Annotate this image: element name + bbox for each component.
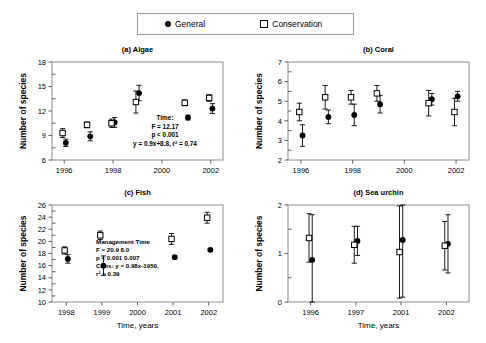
- marker-conservation: [322, 95, 327, 100]
- data-point: [300, 125, 306, 147]
- annotation-line: r² = 0.39: [96, 270, 120, 277]
- annotation-line: p < 0.001: [151, 131, 179, 139]
- legend-item-conservation: Conservation: [260, 19, 322, 29]
- x-tick-label: 1996: [293, 166, 310, 175]
- x-tick-label: 2001: [393, 308, 410, 317]
- y-tick-label: 3: [278, 136, 282, 145]
- x-tick-label: 1998: [58, 308, 75, 317]
- y-tick-label: 12: [38, 286, 46, 295]
- data-point: [209, 104, 215, 114]
- marker-general: [209, 106, 215, 112]
- data-point: [109, 119, 114, 127]
- panel-algae: (a) Algae691215181996199820002002Number …: [18, 45, 223, 175]
- marker-conservation: [169, 236, 174, 241]
- panel-sea-urchin: (d) Sea urchin0121996199720012002Number …: [254, 188, 469, 330]
- data-point: [452, 98, 457, 125]
- data-point: [206, 95, 211, 102]
- marker-conservation: [84, 122, 89, 127]
- legend: General Conservation: [137, 13, 354, 35]
- y-tick-label: 24: [38, 213, 46, 222]
- annotation-line: Cons: y = 0.98x-1950,: [96, 262, 159, 269]
- data-point: [207, 247, 213, 253]
- y-tick-label: 16: [38, 261, 46, 270]
- data-point: [136, 85, 142, 101]
- y-tick-label: 22: [38, 225, 46, 234]
- x-axis-title: Time, years: [117, 321, 159, 330]
- y-tick-label: 15: [38, 82, 46, 91]
- figure-canvas: General Conservation (a) Algae6912151819…: [0, 0, 486, 343]
- data-point: [322, 86, 327, 110]
- marker-conservation: [133, 99, 138, 104]
- y-tick-label: 14: [38, 273, 46, 282]
- marker-conservation: [352, 242, 357, 247]
- panel-coral: (b) Coral2345671996199820002002Number of…: [254, 45, 469, 175]
- x-tick-label: 1996: [56, 166, 73, 175]
- filled-circle-icon: [165, 21, 171, 27]
- y-tick-label: 18: [38, 58, 46, 67]
- y-tick-label: 0: [278, 298, 282, 307]
- x-tick-label: 1999: [94, 308, 111, 317]
- data-point: [352, 226, 357, 263]
- annotation-line: Time:: [157, 114, 174, 121]
- legend-label-conservation: Conservation: [272, 19, 322, 29]
- legend-label-general: General: [175, 19, 205, 29]
- plot-frame-coral: [288, 62, 469, 160]
- data-point: [182, 100, 187, 106]
- marker-general: [65, 256, 71, 262]
- y-tick-label: 12: [38, 107, 46, 116]
- data-point: [377, 95, 383, 113]
- x-axis-title: Time, years: [358, 321, 400, 330]
- x-tick-label: 1996: [302, 308, 319, 317]
- marker-general: [300, 133, 306, 139]
- data-point: [306, 214, 311, 263]
- x-tick-label: 2000: [396, 166, 413, 175]
- marker-general: [87, 133, 93, 139]
- y-tick-label: 10: [38, 298, 46, 307]
- marker-conservation: [204, 215, 209, 220]
- data-point: [204, 212, 209, 223]
- chart-panels: (a) Algae691215181996199820002002Number …: [0, 0, 486, 343]
- marker-general: [351, 112, 357, 118]
- x-tick-label: 2002: [200, 308, 217, 317]
- data-point: [309, 215, 315, 302]
- data-point: [455, 91, 461, 101]
- x-tick-label: 2000: [154, 166, 171, 175]
- data-point: [426, 90, 431, 115]
- marker-conservation: [306, 235, 311, 240]
- marker-general: [63, 140, 69, 146]
- y-tick-label: 6: [278, 77, 282, 86]
- panel-title-fish: (c) Fish: [124, 188, 151, 197]
- marker-general: [377, 101, 383, 107]
- annotation-line: Management Time: [96, 238, 150, 245]
- marker-general: [325, 114, 331, 120]
- y-tick-label: 1: [278, 249, 282, 258]
- plot-frame-sea-urchin: [288, 205, 469, 302]
- data-point: [172, 254, 178, 260]
- marker-conservation: [348, 95, 353, 100]
- marker-conservation: [297, 109, 302, 114]
- open-square-icon: [260, 20, 268, 28]
- x-tick-label: 2002: [438, 308, 455, 317]
- data-point: [355, 226, 361, 255]
- data-point: [374, 86, 379, 102]
- marker-conservation: [182, 100, 187, 105]
- panel-title-sea-urchin: (d) Sea urchin: [353, 188, 403, 197]
- data-point: [63, 139, 69, 146]
- data-point: [348, 90, 353, 104]
- data-point: [297, 103, 302, 121]
- marker-general: [400, 237, 406, 243]
- marker-general: [172, 254, 178, 260]
- y-axis-title: Number of species: [18, 73, 28, 149]
- y-axis-title: Number of species: [18, 215, 28, 291]
- x-tick-label: 1998: [344, 166, 361, 175]
- y-axis-title: Number of species: [254, 215, 264, 291]
- data-point: [442, 221, 447, 269]
- marker-general: [207, 247, 213, 253]
- y-tick-label: 6: [42, 156, 46, 165]
- x-tick-label: 2000: [129, 308, 146, 317]
- data-point: [60, 129, 65, 138]
- x-tick-label: 1997: [348, 308, 365, 317]
- marker-conservation: [397, 249, 402, 254]
- panel-fish: (c) Fish10121416182022242619981999200020…: [18, 188, 223, 330]
- x-tick-label: 2002: [448, 166, 465, 175]
